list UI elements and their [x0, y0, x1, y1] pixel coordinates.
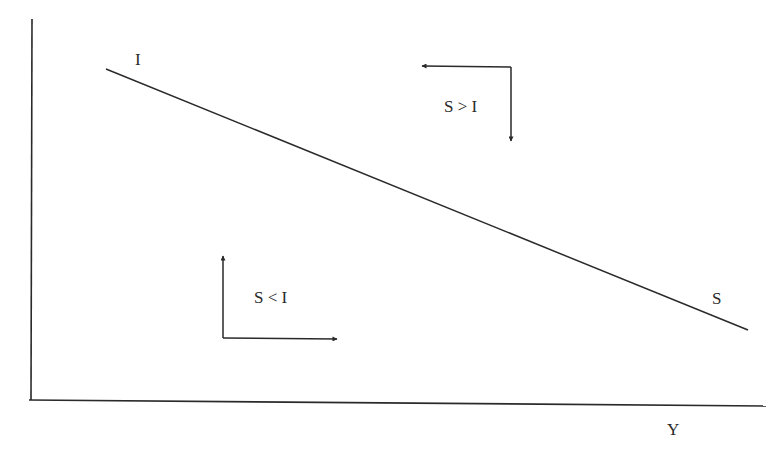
diagram-canvas: I S Y S > I S < I — [0, 0, 783, 452]
arrow-right-icon — [223, 338, 337, 339]
x-axis — [29, 400, 766, 406]
region-s-greater-than-i: S > I — [422, 66, 511, 141]
y-axis — [31, 19, 32, 400]
arrow-left-icon — [422, 66, 511, 67]
region-label-s-lt-i: S < I — [254, 288, 288, 307]
region-s-less-than-i: S < I — [223, 256, 337, 339]
line-label-start: I — [135, 50, 141, 69]
line-label-end: S — [712, 289, 721, 308]
x-axis-label: Y — [667, 420, 679, 439]
is-line — [106, 69, 748, 330]
region-label-s-gt-i: S > I — [444, 97, 478, 116]
axes — [29, 19, 766, 406]
